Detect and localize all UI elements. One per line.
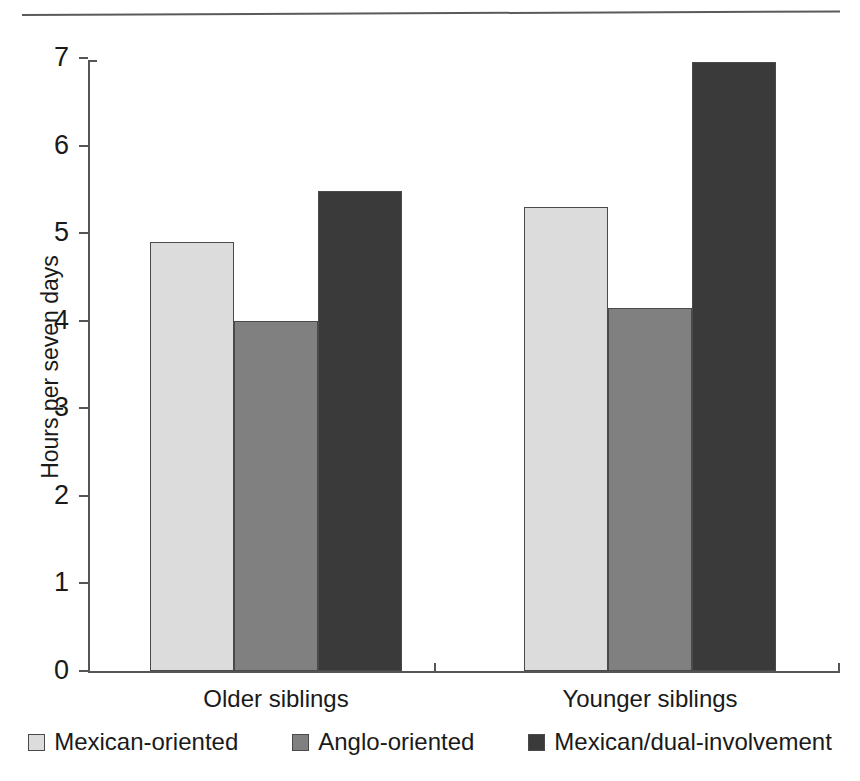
x-axis-line <box>88 671 840 673</box>
x-axis-right-cap <box>838 663 840 673</box>
y-axis-tick-label: 0 <box>54 655 69 685</box>
y-axis-tick-label: 1 <box>54 567 69 597</box>
bar <box>318 191 402 671</box>
y-axis-tick-label: 3 <box>54 392 69 422</box>
plot-area: Hours per seven days 01234567 Older sibl… <box>88 60 840 673</box>
y-axis-tick-label: 5 <box>54 217 69 247</box>
chart-legend: Mexican-orientedAnglo-orientedMexican/du… <box>0 728 860 756</box>
legend-item: Mexican-oriented <box>28 728 238 756</box>
legend-label: Anglo-oriented <box>318 728 474 756</box>
x-axis-middle-tick <box>434 663 436 673</box>
bar <box>692 62 776 671</box>
y-axis-tick: 4 <box>79 320 88 322</box>
bar <box>234 321 318 671</box>
y-axis-tick-label: 4 <box>54 305 69 335</box>
y-axis-tick-label: 6 <box>54 130 69 160</box>
legend-label: Mexican/dual-involvement <box>554 728 831 756</box>
legend-item: Mexican/dual-involvement <box>528 728 831 756</box>
y-axis-title: Hours per seven days <box>37 255 64 479</box>
legend-label: Mexican-oriented <box>54 728 238 756</box>
y-axis-tick: 7 <box>79 57 88 59</box>
x-axis-category-label: Younger siblings <box>562 685 737 713</box>
y-axis-tick-label: 2 <box>54 480 69 510</box>
bar <box>608 308 692 671</box>
y-axis-tick: 1 <box>79 582 88 584</box>
x-axis-category-label: Older siblings <box>203 685 348 713</box>
y-axis-tick: 5 <box>79 232 88 234</box>
y-axis-tick: 6 <box>79 145 88 147</box>
top-horizontal-rule <box>22 10 840 16</box>
legend-item: Anglo-oriented <box>292 728 474 756</box>
dark-gray-swatch <box>528 734 545 751</box>
y-axis-tick-label: 7 <box>54 42 69 72</box>
bar <box>524 207 608 671</box>
y-axis-top-cap <box>88 60 97 62</box>
bar <box>150 242 234 671</box>
y-axis-tick: 2 <box>79 495 88 497</box>
bar-chart-figure: Hours per seven days 01234567 Older sibl… <box>0 0 860 781</box>
y-axis-line <box>88 60 90 673</box>
medium-gray-swatch <box>292 734 309 751</box>
y-axis-tick: 0 <box>79 670 88 672</box>
y-axis-tick: 3 <box>79 407 88 409</box>
light-gray-swatch <box>28 734 45 751</box>
